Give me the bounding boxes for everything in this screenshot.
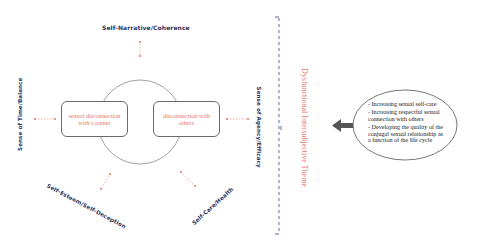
box-disconnection-others-text: disconnection with others <box>163 112 211 126</box>
goal-item: - Increasing respectful sexual connectio… <box>368 109 446 122</box>
goals-list: - Increasing sexual self-care - Increasi… <box>368 101 446 145</box>
connector-bottom-right <box>180 171 196 187</box>
goal-item: - Developing the quality of the conjugal… <box>368 124 446 144</box>
theme-bracket <box>275 17 281 234</box>
connector-bottom-left <box>100 173 111 190</box>
box-sexual-disconnection-text: sexual disconnection with a patner <box>69 112 121 126</box>
connector-left <box>34 118 56 120</box>
box-sexual-disconnection: sexual disconnection with a patner <box>61 101 128 137</box>
label-sense-of-agency: Sense of Agency/Efficacy <box>256 87 262 152</box>
label-sense-of-time: Sense of Time/Balance <box>17 91 23 151</box>
box-disconnection-others: disconnection with others <box>153 101 220 137</box>
goal-item: - Increasing sexual self-care <box>368 101 446 108</box>
thick-arrow <box>332 119 356 132</box>
label-self-narrative: Self-Narrative/Coherence <box>102 24 190 31</box>
connector-right <box>226 118 249 120</box>
connector-top <box>139 41 141 57</box>
theme-label: Dysfunctional Intersubjective Theme <box>300 68 309 183</box>
